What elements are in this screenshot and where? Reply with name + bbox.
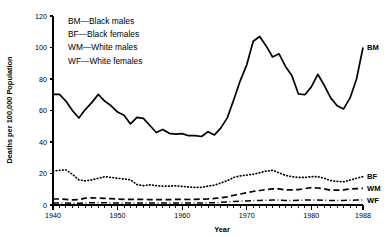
chart-figure: 020406080100120 194019501960197019801988…	[0, 0, 391, 237]
y-axis-title: Deaths per 100,000 Population	[5, 56, 14, 164]
legend-item: BM—Black males	[68, 16, 134, 26]
y-tick-label: 80	[39, 75, 47, 84]
series-label-bf: BF	[367, 172, 377, 181]
series-line-wm	[53, 188, 363, 200]
series-line-bf	[53, 170, 363, 187]
x-tick-label: 1950	[110, 211, 126, 220]
series-label-wm: WM	[367, 184, 381, 193]
x-tick-label: 1960	[174, 211, 190, 220]
series-label-bm: BM	[367, 43, 379, 52]
y-tick-label: 40	[39, 138, 47, 147]
legend-item: WM—White males	[68, 42, 137, 52]
y-tick-label: 60	[39, 106, 47, 115]
x-tick-label: 1940	[45, 211, 61, 220]
y-tick-label: 100	[35, 43, 47, 52]
y-tick-group: 020406080100120	[35, 12, 53, 210]
series-line-wf	[53, 200, 363, 203]
y-tick-label: 20	[39, 169, 47, 178]
series-label-group: BMBFWMWF	[367, 43, 381, 205]
legend-item: BF—Black females	[68, 29, 139, 39]
chart-legend: BM—Black malesBF—Black femalesWM—White m…	[68, 16, 142, 66]
x-axis-title: Year	[214, 225, 230, 234]
y-tick-label: 0	[43, 201, 47, 210]
legend-item: WF—White females	[68, 56, 142, 66]
x-tick-label: 1988	[355, 211, 371, 220]
line-chart: 020406080100120 194019501960197019801988…	[0, 0, 391, 237]
y-tick-label: 120	[35, 12, 47, 21]
x-tick-label: 1980	[303, 211, 319, 220]
x-tick-label: 1970	[239, 211, 255, 220]
series-label-wf: WF	[367, 196, 379, 205]
